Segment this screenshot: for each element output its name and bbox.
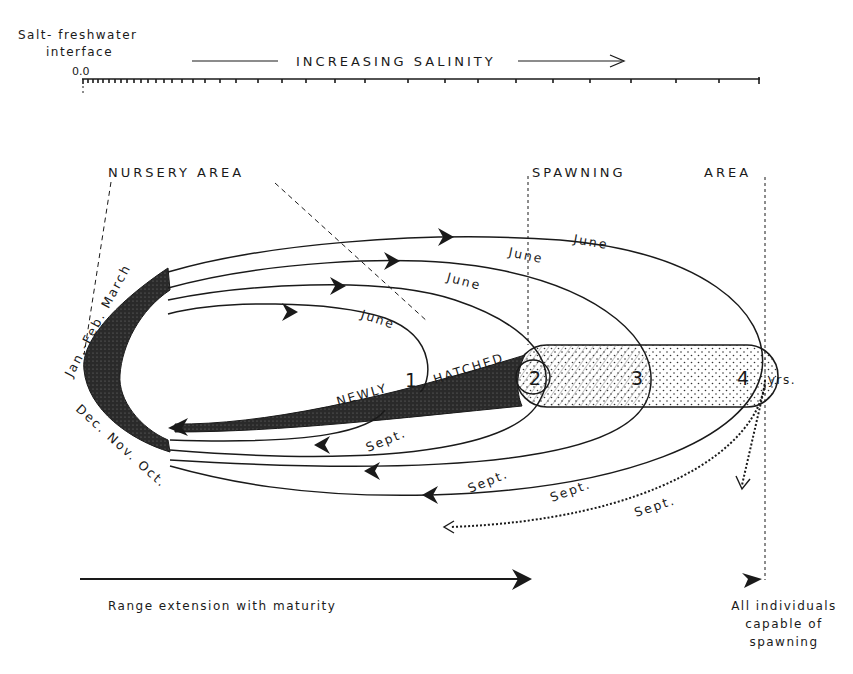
june-label-1: June xyxy=(358,306,397,331)
sept-label-3: Sept. xyxy=(548,476,593,505)
dotted-arrow-down-icon xyxy=(736,476,750,489)
arrow-left-icon xyxy=(364,462,380,480)
arrow-right-icon xyxy=(330,277,346,295)
spawning-label: SPAWNING xyxy=(532,165,626,180)
sept-label-1: Sept. xyxy=(364,425,409,455)
arrow-right-icon xyxy=(282,303,298,321)
origin-label-line2: interface xyxy=(46,45,113,59)
age-3: 3 xyxy=(631,367,643,389)
spawn-caption-line2: capable of xyxy=(745,617,823,631)
age-unit: yrs. xyxy=(768,373,796,387)
june-label-2: June xyxy=(444,269,483,293)
age-4: 4 xyxy=(737,367,749,389)
age-2: 2 xyxy=(529,367,541,389)
june-label-3: June xyxy=(506,244,545,266)
range-extension-arrow xyxy=(80,569,532,590)
june-label-4: June xyxy=(571,231,609,252)
age-1: 1 xyxy=(405,369,417,391)
origin-value: 0.0 xyxy=(72,65,90,78)
nursery-right-boundary xyxy=(275,183,428,322)
spawn-caption-line3: spawning xyxy=(749,635,818,649)
axis-title-arrow xyxy=(518,55,624,67)
salinity-scale: Salt- freshwater interface 0.0 INCREASIN… xyxy=(18,28,760,95)
nursery-area-label: NURSERY AREA xyxy=(108,165,244,180)
spawning-capable-arrow-icon xyxy=(742,573,762,588)
range-extension-label: Range extension with maturity xyxy=(108,599,336,613)
migration-diagram: Salt- freshwater interface 0.0 INCREASIN… xyxy=(0,0,853,674)
sept-label-4: Sept. xyxy=(632,492,677,519)
arrow-left-icon xyxy=(314,436,330,454)
spawning-area-label: AREA xyxy=(704,165,751,180)
axis-title: INCREASING SALINITY xyxy=(296,54,496,69)
spawn-caption-line1: All individuals xyxy=(731,599,837,613)
salinity-axis-ticks xyxy=(83,77,759,84)
origin-label-line1: Salt- freshwater xyxy=(18,28,137,42)
